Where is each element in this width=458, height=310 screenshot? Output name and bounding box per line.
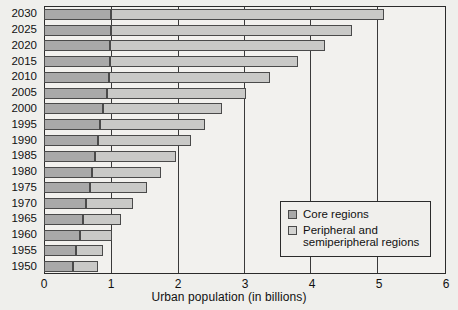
x-axis-tick-label: 3 (242, 278, 249, 290)
bar-segment-core (44, 214, 83, 225)
bar-segment-core (44, 151, 95, 162)
bar-segment-peripheral (103, 103, 222, 114)
y-axis-tick-label: 2000 (11, 103, 37, 114)
y-axis-tick-label: 1960 (11, 229, 37, 240)
x-axis-tick-label: 0 (41, 278, 48, 290)
chart-legend: Core regions Peripheral andsemiperiphera… (280, 201, 431, 257)
bar-segment-core (44, 40, 110, 51)
y-axis-tick-label: 1980 (11, 166, 37, 177)
legend-label-peripheral: Peripheral andsemiperipheral regions (303, 224, 419, 249)
bar-segment-peripheral (76, 245, 103, 256)
bar-segment-peripheral (90, 182, 148, 193)
bar-segment-peripheral (109, 72, 270, 83)
stacked-bar-chart: 2030202520202015201020052000199519901985… (0, 0, 458, 310)
bar-segment-peripheral (83, 214, 121, 225)
bar-segment-core (44, 261, 73, 272)
bar-segment-peripheral (92, 167, 161, 178)
x-axis-tick-label: 2 (175, 278, 182, 290)
x-axis-tick-label: 4 (309, 278, 316, 290)
bar-segment-peripheral (110, 56, 298, 67)
legend-item-core: Core regions (288, 208, 423, 221)
bar-segment-core (44, 88, 107, 99)
y-axis-tick-label: 2020 (11, 40, 37, 51)
legend-item-peripheral: Peripheral andsemiperipheral regions (288, 224, 423, 249)
bar-segment-core (44, 119, 100, 130)
y-axis-labels: 2030202520202015201020052000199519901985… (0, 6, 40, 274)
y-axis-tick-label: 2030 (11, 8, 37, 19)
bar-segment-core (44, 72, 109, 83)
bar-segment-peripheral (98, 135, 191, 146)
bar-segment-peripheral (111, 9, 384, 20)
y-axis-tick-label: 2005 (11, 87, 37, 98)
bar-segment-peripheral (110, 40, 325, 51)
x-axis-tick-label: 1 (108, 278, 115, 290)
y-axis-tick-label: 2010 (11, 71, 37, 82)
x-axis-tick-label: 6 (443, 278, 450, 290)
bar-segment-core (44, 167, 92, 178)
bar-segment-core (44, 25, 111, 36)
bar-segment-peripheral (111, 25, 352, 36)
legend-label-peripheral-line2: semiperipheral regions (303, 236, 419, 248)
bar-segment-core (44, 182, 90, 193)
y-axis-tick-label: 1985 (11, 150, 37, 161)
bar-segment-core (44, 135, 98, 146)
core-swatch-icon (288, 210, 297, 219)
bar-segment-peripheral (86, 198, 133, 209)
bar-segment-core (44, 230, 80, 241)
bar-segment-core (44, 198, 86, 209)
bar-segment-peripheral (95, 151, 176, 162)
y-axis-tick-label: 2015 (11, 56, 37, 67)
bar-segment-core (44, 56, 110, 67)
bar-segment-peripheral (80, 230, 112, 241)
y-axis-tick-label: 1950 (11, 261, 37, 272)
y-axis-tick-label: 2025 (11, 24, 37, 35)
bar-segment-peripheral (100, 119, 205, 130)
bar-segment-core (44, 245, 76, 256)
bar-segment-peripheral (107, 88, 246, 99)
y-axis-tick-label: 1995 (11, 119, 37, 130)
x-axis-tick-label: 5 (376, 278, 383, 290)
peripheral-swatch-icon (288, 226, 297, 235)
y-axis-tick-label: 1990 (11, 135, 37, 146)
y-axis-tick-label: 1970 (11, 198, 37, 209)
bar-segment-core (44, 103, 103, 114)
x-axis-title: Urban population (in billions) (0, 290, 458, 304)
y-axis-tick-label: 1975 (11, 182, 37, 193)
y-axis-tick-label: 1955 (11, 245, 37, 256)
bar-segment-core (44, 9, 111, 20)
y-axis-tick-label: 1965 (11, 213, 37, 224)
legend-label-peripheral-line1: Peripheral and (303, 224, 378, 236)
legend-label-core: Core regions (303, 208, 369, 221)
bar-segment-peripheral (73, 261, 97, 272)
